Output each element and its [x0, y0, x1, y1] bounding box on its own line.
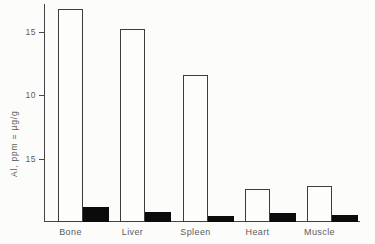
bar-muscle-filled — [332, 215, 358, 222]
x-label-bone: Bone — [59, 227, 82, 237]
y-tick-mark-1 — [39, 95, 44, 96]
y-tick-mark-0 — [39, 32, 44, 33]
bar-liver-open — [120, 29, 145, 222]
y-tick-label-0: 15 — [20, 27, 36, 37]
bar-spleen-filled — [208, 216, 234, 222]
plot-area: 151015BoneLiverSpleenHeartMuscle — [0, 0, 375, 244]
y-axis-line — [44, 4, 45, 222]
bar-heart-filled — [270, 213, 296, 222]
bar-muscle-open — [307, 186, 332, 222]
bar-chart-figure: Al, ppm = µg/g 151015BoneLiverSpleenHear… — [0, 0, 375, 244]
x-label-heart: Heart — [245, 227, 269, 237]
bar-heart-open — [245, 189, 270, 222]
bar-bone-open — [58, 9, 83, 222]
bar-liver-filled — [145, 212, 171, 222]
bar-spleen-open — [183, 75, 208, 222]
y-tick-mark-2 — [39, 159, 44, 160]
y-tick-label-1: 10 — [20, 90, 36, 100]
x-label-spleen: Spleen — [180, 227, 210, 237]
x-label-muscle: Muscle — [304, 227, 335, 237]
bar-bone-filled — [83, 207, 109, 222]
y-tick-label-2: 15 — [20, 154, 36, 164]
x-label-liver: Liver — [122, 227, 144, 237]
